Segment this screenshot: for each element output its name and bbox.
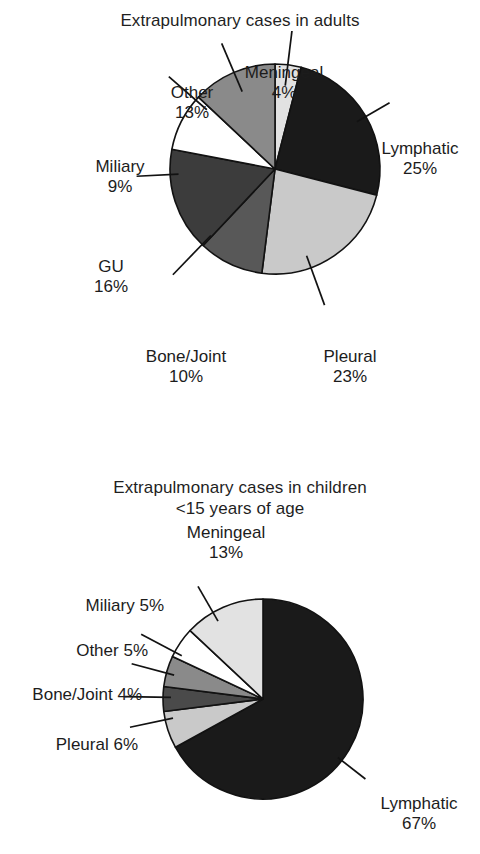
figure-adults: Extrapulmonary cases in adults Other 13%… (0, 0, 480, 430)
pie-label-pleural-child-name: Pleural (56, 735, 109, 754)
pie-label-miliary-child: Miliary 5% (36, 596, 164, 616)
pie-label-pleural-child-value: 6% (113, 735, 138, 754)
pie-label-meningeal-value: 4% (228, 83, 340, 103)
pie-label-lymphatic-value: 25% (368, 159, 472, 179)
pie-label-lymphatic-child-name: Lymphatic (366, 794, 472, 814)
pie-label-bonejoint-child-value: 4% (117, 685, 142, 704)
chart-title-children-line1: Extrapulmonary cases in children (113, 478, 367, 497)
pie-chart-adults: Other 13% Meningeal 4% Lymphatic 25% Mil… (0, 31, 480, 391)
leader-line-bonejoint (173, 235, 211, 274)
pie-label-other: Other 13% (150, 83, 234, 123)
pie-label-lymphatic-name: Lymphatic (368, 139, 472, 159)
pie-chart-children: Meningeal 13% Miliary 5% Other 5% Bone/J… (0, 519, 480, 854)
pie-label-meningeal-child-value: 13% (150, 543, 302, 563)
pie-label-lymphatic-child-value: 67% (366, 814, 472, 834)
pie-label-meningeal-child-name: Meningeal (150, 523, 302, 543)
chart-title-adults: Extrapulmonary cases in adults (0, 0, 480, 31)
pie-label-other-value: 13% (150, 103, 234, 123)
pie-label-miliary-child-name: Miliary (86, 596, 135, 615)
pie-label-bonejoint-name: Bone/Joint (122, 347, 250, 367)
pie-label-bonejoint-child: Bone/Joint 4% (0, 685, 142, 705)
pie-label-gu: GU 16% (68, 257, 154, 297)
pie-label-meningeal-name: Meningeal (228, 63, 340, 83)
pie-label-other-child-value: 5% (123, 641, 148, 660)
pie-label-bonejoint-value: 10% (122, 367, 250, 387)
pie-label-other-name: Other (150, 83, 234, 103)
pie-label-lymphatic-child: Lymphatic 67% (366, 794, 472, 834)
pie-label-pleural-value: 23% (302, 367, 398, 387)
chart-title-children-line2: <15 years of age (176, 499, 305, 518)
pie-label-meningeal: Meningeal 4% (228, 63, 340, 103)
leader-line-lymphatic-child (338, 757, 366, 779)
pie-label-pleural-child: Pleural 6% (14, 735, 138, 755)
pie-label-other-child-name: Other (76, 641, 119, 660)
pie-label-miliary-name: Miliary (78, 157, 162, 177)
pie-label-lymphatic: Lymphatic 25% (368, 139, 472, 179)
pie-label-gu-name: GU (68, 257, 154, 277)
pie-children-slices (163, 599, 363, 799)
chart-title-children: Extrapulmonary cases in children <15 yea… (0, 430, 480, 519)
pie-label-gu-value: 16% (68, 277, 154, 297)
pie-label-miliary-value: 9% (78, 177, 162, 197)
pie-label-bonejoint-child-name: Bone/Joint (32, 685, 112, 704)
pie-label-meningeal-child: Meningeal 13% (150, 523, 302, 563)
pie-label-bonejoint: Bone/Joint 10% (122, 347, 250, 387)
pie-label-other-child: Other 5% (32, 641, 148, 661)
pie-label-miliary: Miliary 9% (78, 157, 162, 197)
pie-label-pleural: Pleural 23% (302, 347, 398, 387)
pie-label-miliary-child-value: 5% (139, 596, 164, 615)
pie-label-pleural-name: Pleural (302, 347, 398, 367)
figure-children: Extrapulmonary cases in children <15 yea… (0, 430, 480, 854)
